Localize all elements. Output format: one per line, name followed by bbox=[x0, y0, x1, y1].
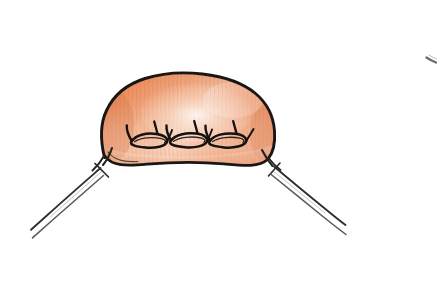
thread-left bbox=[31, 148, 112, 238]
tissue-mound bbox=[90, 68, 286, 173]
thread-right bbox=[262, 150, 346, 235]
stray-pen-mark bbox=[427, 55, 437, 63]
illustration-canvas: Rounded dome of tissue, flat-ish curved … bbox=[0, 0, 445, 307]
surgical-illustration bbox=[0, 0, 445, 307]
